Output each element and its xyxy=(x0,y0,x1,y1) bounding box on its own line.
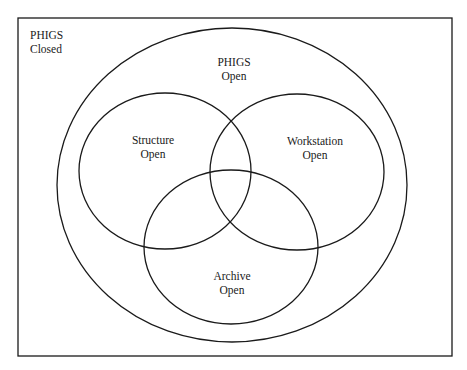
archive-open-ellipse xyxy=(144,170,318,324)
workstation-open-line2: Open xyxy=(279,148,351,162)
structure-open-line1: Structure xyxy=(123,133,183,147)
phigs-closed-label: PHIGS Closed xyxy=(30,28,63,56)
workstation-open-label: Workstation Open xyxy=(279,134,351,162)
phigs-closed-line1: PHIGS xyxy=(30,28,63,42)
archive-open-line2: Open xyxy=(202,283,262,297)
workstation-open-ellipse xyxy=(210,94,384,250)
workstation-open-line1: Workstation xyxy=(279,134,351,148)
phigs-open-label: PHIGS Open xyxy=(204,55,264,83)
structure-open-label: Structure Open xyxy=(123,133,183,161)
archive-open-line1: Archive xyxy=(202,269,262,283)
structure-open-ellipse xyxy=(79,93,251,249)
structure-open-line2: Open xyxy=(123,147,183,161)
archive-open-label: Archive Open xyxy=(202,269,262,297)
phigs-closed-line2: Closed xyxy=(30,42,63,56)
phigs-open-line1: PHIGS xyxy=(204,55,264,69)
phigs-open-line2: Open xyxy=(204,69,264,83)
